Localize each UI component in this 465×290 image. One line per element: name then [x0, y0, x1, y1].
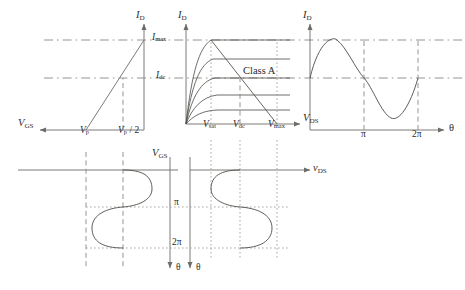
class-a-annotation: Class A [243, 66, 275, 77]
tick-vmax: Vmax [268, 120, 285, 130]
idwave-y-axis-label: ID [303, 10, 312, 22]
drain-voltage-sine [211, 170, 272, 248]
tick-vdc: Vdc [233, 120, 245, 130]
drain-curve-family [186, 40, 290, 124]
gate-theta-label: θ [176, 263, 181, 273]
tick-pi-bottom: π [174, 198, 179, 208]
transfer-y-axis-label: ID [136, 10, 145, 22]
class-a-load-line [211, 40, 277, 124]
output-x-axis-label: VDS [303, 113, 319, 125]
tick-vsat: Vsat [203, 120, 216, 130]
tick-vp: Vp [80, 126, 89, 136]
gate-wave-axis-label: VGS [152, 148, 168, 160]
tick-vp-half: Vp / 2 [118, 126, 139, 136]
drain-curve-1 [186, 40, 290, 124]
transfer-x-axis-label: VGS [18, 118, 34, 130]
level-idc: Idc [156, 71, 165, 81]
tick-twopi-right: 2π [412, 130, 422, 140]
tick-twopi-bottom: 2π [172, 238, 182, 248]
class-a-amplifier-diagram [0, 0, 465, 290]
idwave-x-axis-label: θ [449, 123, 454, 134]
drain-wave-axis-label: vDS [313, 163, 327, 175]
output-y-axis-label: ID [178, 10, 187, 22]
drain-theta-label: θ [196, 263, 201, 273]
figure-canvas: ID VGS Vp Vp / 2 Imax Idc ID VDS Class A… [0, 0, 465, 290]
level-imax: Imax [152, 33, 166, 43]
gate-voltage-sine [92, 170, 152, 248]
transfer-line [86, 40, 144, 130]
tick-pi-right: π [361, 130, 366, 140]
